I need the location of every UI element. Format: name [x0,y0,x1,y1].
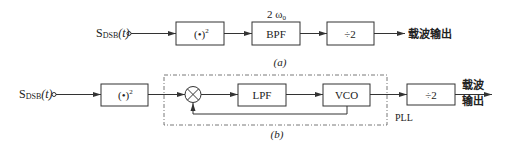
input-label-a: SDSB(t) [96,26,130,40]
caption-a: (a) [274,56,287,69]
divider-label-b: ÷2 [425,89,437,101]
divider-label-a: ÷2 [344,28,356,40]
diagram-a: SDSB(t) (•)2 BPF 2 ω0 ÷2 载波输出 (a) [96,8,452,69]
carrier-recovery-diagram: SDSB(t) (•)2 BPF 2 ω0 ÷2 载波输出 (a) PLL SD… [0,0,509,150]
diagram-b: PLL SDSB(t) (•)2 LPF VCO ÷2 载波 输出 (b) [19,75,492,141]
output-label-b-line2: 输出 [462,94,484,108]
caption-b: (b) [271,128,284,141]
output-label-a: 载波输出 [408,27,452,41]
multiplier-icon [185,87,201,103]
bpf-center-frequency: 2 ω0 [267,8,287,22]
vco-label: VCO [335,89,358,101]
lpf-label: LPF [253,89,272,101]
input-terminal-b [52,93,56,97]
pll-label: PLL [395,112,413,123]
bpf-label: BPF [266,28,286,40]
input-label-b: SDSB(t) [19,87,53,101]
output-label-b-line1: 载波 [462,78,485,92]
